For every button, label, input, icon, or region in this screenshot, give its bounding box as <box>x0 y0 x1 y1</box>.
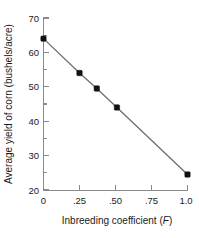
x-tick-label-1.0: 1.0 <box>179 195 192 206</box>
data-point <box>114 105 119 110</box>
y-tick-label-70: 70 <box>28 13 39 24</box>
corn-yield-line-chart: 70 60 50 40 30 20 0 .25 .50 .75 1.0 Inbr… <box>0 0 199 238</box>
y-tick-label-60: 60 <box>28 47 39 58</box>
data-point <box>41 36 46 41</box>
y-tick-label-40: 40 <box>28 116 39 127</box>
y-tick-label-50: 50 <box>28 81 39 92</box>
y-tick-label-20: 20 <box>28 185 39 196</box>
axis-spines <box>44 17 188 191</box>
y-tick-label-30: 30 <box>28 150 39 161</box>
data-point <box>94 86 99 91</box>
x-tick-label-0.75: .75 <box>145 195 158 206</box>
data-point <box>77 70 82 75</box>
x-tick-label-0.50: .50 <box>109 195 122 206</box>
chart-figure: 70 60 50 40 30 20 0 .25 .50 .75 1.0 Inbr… <box>0 0 199 238</box>
data-point <box>185 172 190 177</box>
y-axis-title: Average yield of corn (bushels/acre) <box>3 24 14 184</box>
x-tick-label-0.25: .25 <box>73 195 86 206</box>
data-series-corn-yield <box>41 36 190 177</box>
x-axis-title: Inbreeding coefficient (F) <box>62 215 172 226</box>
x-tick-label-0: 0 <box>41 195 46 206</box>
x-axis-major-ticks <box>44 185 188 191</box>
